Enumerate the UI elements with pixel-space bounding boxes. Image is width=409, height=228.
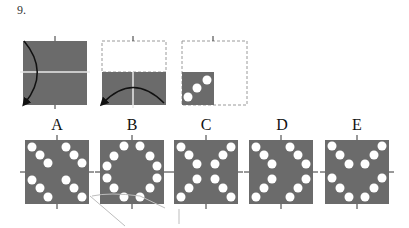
option-label-e: E (347, 116, 367, 134)
fold-step-3 (182, 36, 247, 105)
option-c[interactable] (169, 135, 243, 209)
option-label-a: A (47, 116, 67, 134)
option-e[interactable] (320, 135, 394, 209)
fold-step-1 (20, 36, 90, 109)
hole (203, 76, 212, 85)
hole (193, 84, 202, 93)
option-label-b: B (122, 116, 142, 134)
option-label-c: C (196, 116, 216, 134)
figure-canvas (0, 0, 409, 228)
fold-step-2 (102, 36, 166, 108)
option-d[interactable] (244, 135, 318, 209)
option-label-d: D (272, 116, 292, 134)
option-b[interactable] (95, 135, 169, 209)
option-a[interactable] (20, 135, 94, 209)
hole (184, 93, 193, 102)
